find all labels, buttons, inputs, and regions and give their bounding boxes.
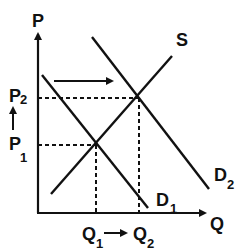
p1-subscript: 1 — [20, 150, 27, 165]
d2-subscript: 2 — [227, 177, 234, 192]
d2-label: D — [214, 165, 227, 185]
demand-curve-d2 — [92, 37, 209, 189]
q1-subscript: 1 — [96, 236, 103, 251]
p2-subscript: 2 — [20, 92, 27, 107]
d1-subscript: 1 — [170, 201, 177, 216]
q1-label: Q — [82, 224, 96, 244]
supply-demand-diagram: P Q S D 1 D 2 P 2 P 1 Q 1 Q 2 — [0, 0, 239, 252]
x-axis-label: Q — [210, 214, 224, 234]
d1-label: D — [156, 190, 169, 210]
supply-label: S — [176, 30, 188, 50]
y-axis-label: P — [32, 11, 44, 31]
q2-label: Q — [133, 224, 147, 244]
q2-subscript: 2 — [147, 236, 154, 251]
supply-curve — [51, 56, 172, 194]
